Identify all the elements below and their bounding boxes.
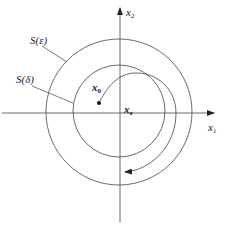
s-delta-leader [32,86,73,103]
s-delta-label: S(δ) [16,74,34,85]
s-epsilon-label: S(ε) [30,35,47,46]
x2-axis-label: x2 [126,7,134,20]
outer-circle-s-epsilon [46,39,192,185]
xe-label: xe [124,104,133,117]
start-point-dot [97,101,101,105]
inner-circle-s-delta [73,65,165,157]
trajectory-curve [100,73,176,172]
s-epsilon-leader [42,46,67,62]
x1-axis-label: x1 [208,122,216,135]
x0-label: x0 [92,82,101,95]
